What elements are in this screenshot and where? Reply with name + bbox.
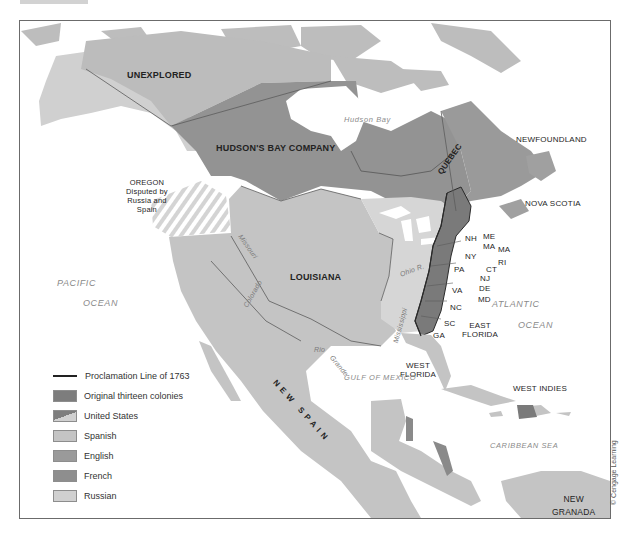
line-swatch [53, 375, 77, 377]
color-swatch [53, 490, 77, 502]
split-swatch [53, 410, 77, 422]
label-ga: GA [433, 331, 445, 340]
label-sc: SC [444, 319, 456, 328]
label-caribbean-sea: CARIBBEAN SEA [490, 441, 558, 450]
color-swatch [53, 390, 77, 402]
label-gulf-of-mexico: GULF OF MEXICO [344, 373, 416, 382]
legend-item-russian: Russian [53, 486, 190, 506]
label-hudson-bay: Hudson Bay [344, 115, 391, 124]
label-nh: NH [465, 234, 477, 243]
label-ri: RI [498, 258, 506, 267]
label-rio: Rio [314, 346, 325, 353]
label-pa: PA [454, 265, 464, 274]
color-swatch [53, 450, 77, 462]
legend-item-colonies: Original thirteen colonies [53, 386, 190, 406]
label-new-granada: NEW GRANADA [552, 493, 595, 519]
map-frame: UNEXPLORED HUDSON'S BAY COMPANY Hudson B… [19, 20, 611, 519]
label-va: VA [452, 286, 462, 295]
label-pacific-ocean: OCEAN [83, 298, 118, 308]
legend-item-united-states: United States [53, 406, 190, 426]
map-legend: Proclamation Line of 1763 Original thirt… [53, 366, 190, 506]
label-ma: MA [498, 245, 510, 254]
label-ct: CT [486, 265, 497, 274]
label-east-florida: EAST FLORIDA [462, 321, 498, 339]
label-de: DE [479, 284, 491, 293]
label-nc: NC [450, 303, 462, 312]
label-me: ME [483, 232, 495, 241]
legend-item-spanish: Spanish [53, 426, 190, 446]
label-unexplored: UNEXPLORED [127, 70, 192, 80]
label-newfoundland: NEWFOUNDLAND [516, 135, 587, 144]
label-nj: NJ [480, 274, 490, 283]
label-atlantic-ocean: OCEAN [518, 320, 553, 330]
label-west-indies: WEST INDIES [513, 384, 567, 393]
label-oregon: OREGON Disputed by Russia and Spain [126, 178, 168, 214]
label-md: MD [478, 295, 491, 304]
label-pacific: PACIFIC [57, 278, 96, 288]
label-hudsons-bay-company: HUDSON'S BAY COMPANY [216, 143, 336, 153]
color-swatch [53, 470, 77, 482]
credit-text: © Cengage Learning [610, 440, 617, 505]
label-nova-scotia: NOVA SCOTIA [525, 199, 581, 208]
legend-item-english: English [53, 446, 190, 466]
label-louisiana: LOUISIANA [290, 272, 341, 282]
label-ny: NY [465, 252, 477, 261]
label-atlantic: ATLANTIC [492, 299, 540, 309]
legend-item-proclamation-line: Proclamation Line of 1763 [53, 366, 190, 386]
belize-english [406, 416, 413, 441]
color-swatch [53, 430, 77, 442]
header-bar [20, 0, 88, 4]
label-ma-north: MA [483, 242, 495, 251]
legend-item-french: French [53, 466, 190, 486]
